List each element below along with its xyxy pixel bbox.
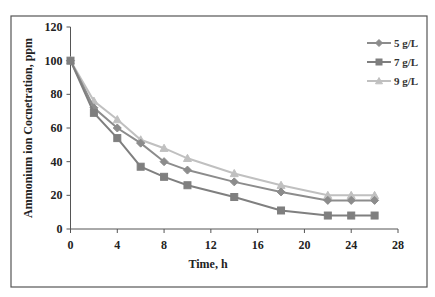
y-tick-label: 100 (45, 54, 63, 68)
square-marker (90, 109, 97, 116)
square-marker (376, 59, 382, 65)
y-tick-label: 40 (51, 155, 63, 169)
x-tick-label: 4 (114, 238, 120, 252)
square-marker (278, 207, 285, 214)
square-marker (348, 212, 355, 219)
square-marker (67, 57, 74, 64)
legend-label: 9 g/L (394, 75, 418, 87)
x-axis-title: Time, h (188, 257, 227, 271)
y-axis-title: Ammonium ion Cocnetration, ppm (21, 38, 35, 218)
x-tick-label: 24 (345, 238, 357, 252)
y-tick-label: 80 (51, 87, 63, 101)
y-tick-label: 0 (57, 222, 63, 236)
square-marker (184, 182, 191, 189)
x-tick-label: 28 (392, 238, 404, 252)
square-marker (231, 194, 238, 201)
x-tick-label: 20 (298, 238, 310, 252)
y-tick-label: 120 (45, 20, 63, 34)
square-marker (371, 212, 378, 219)
square-marker (114, 135, 121, 142)
y-tick-label: 60 (51, 121, 63, 135)
square-marker (137, 163, 144, 170)
square-marker (324, 212, 331, 219)
x-tick-label: 12 (205, 238, 217, 252)
x-tick-label: 16 (252, 238, 264, 252)
y-tick-label: 20 (51, 188, 63, 202)
chart: 0204060801001200481216202428 5 g/L7 g/L9… (0, 0, 435, 297)
x-tick-label: 0 (68, 238, 74, 252)
legend-label: 7 g/L (394, 56, 418, 68)
x-tick-label: 8 (161, 238, 167, 252)
square-marker (161, 173, 168, 180)
legend-label: 5 g/L (394, 37, 418, 49)
